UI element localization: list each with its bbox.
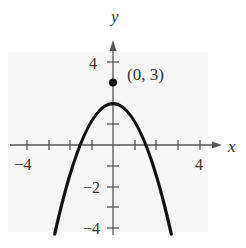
x-tick-label-neg4: −4 xyxy=(14,156,31,173)
y-tick-label-4: 4 xyxy=(89,55,97,72)
y-axis-arrow-icon xyxy=(110,40,117,51)
x-axis-label: x xyxy=(227,137,236,156)
parabola-chart: y x (0, 3) 4 −2 −4 −4 4 xyxy=(0,0,246,248)
y-tick-label-neg2: −2 xyxy=(83,179,100,196)
vertex-point xyxy=(109,79,117,87)
x-axis-arrow-icon xyxy=(212,142,222,149)
x-tick-label-4: 4 xyxy=(195,156,203,173)
y-axis-label: y xyxy=(109,7,119,26)
vertex-label: (0, 3) xyxy=(127,65,164,84)
y-tick-label-neg4: −4 xyxy=(83,220,100,237)
